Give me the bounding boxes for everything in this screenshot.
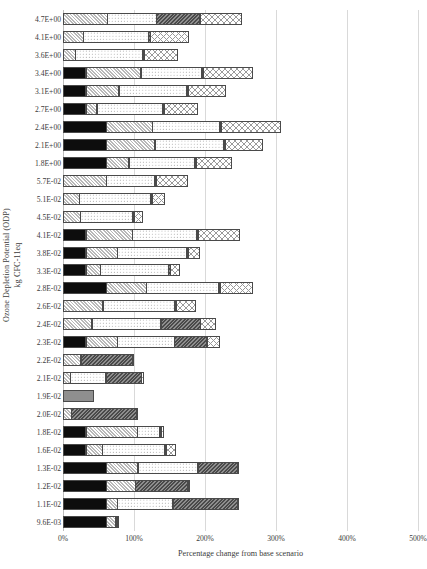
bar-row bbox=[63, 279, 418, 297]
bar-row bbox=[63, 136, 418, 154]
stacked-bar[interactable] bbox=[63, 13, 242, 25]
stacked-bar[interactable] bbox=[63, 498, 239, 510]
y-axis-tick-label: 5.7E-02 bbox=[37, 176, 61, 185]
bar-segment-segment-2 bbox=[63, 211, 81, 223]
y-axis-tick-label: 9.6E-03 bbox=[37, 518, 61, 527]
bar-segment-segment-3 bbox=[70, 372, 106, 384]
bar-row bbox=[63, 28, 418, 46]
bar-segment-segment-2 bbox=[86, 103, 97, 115]
bar-segment-segment-1 bbox=[63, 444, 86, 456]
stacked-bar[interactable] bbox=[63, 264, 180, 276]
stacked-bar[interactable] bbox=[63, 247, 200, 259]
bar-segment-segment-3 bbox=[79, 193, 151, 205]
bar-segment-segment-2 bbox=[106, 121, 152, 133]
bar-row bbox=[63, 64, 418, 82]
y-axis-tick-label: 2.4E-02 bbox=[37, 320, 61, 329]
bar-segment-segment-5 bbox=[188, 480, 190, 492]
stacked-bar[interactable] bbox=[63, 121, 281, 133]
stacked-bar[interactable] bbox=[63, 67, 253, 79]
bar-segment-segment-5 bbox=[141, 372, 143, 384]
bar-segment-segment-3 bbox=[97, 103, 164, 115]
stacked-bar[interactable] bbox=[63, 444, 176, 456]
bar-row bbox=[63, 297, 418, 315]
bar-segment-segment-3 bbox=[152, 121, 220, 133]
stacked-bar[interactable] bbox=[63, 408, 138, 420]
y-axis-tick-label: 2.8E-02 bbox=[37, 284, 61, 293]
stacked-bar[interactable] bbox=[63, 103, 198, 115]
bar-segment-segment-5 bbox=[117, 516, 119, 528]
bar-segment-segment-1 bbox=[63, 103, 86, 115]
y-axis-tick-label: 2.2E-02 bbox=[37, 356, 61, 365]
bar-segment-segment-1 bbox=[63, 462, 107, 474]
plot-area bbox=[63, 10, 418, 531]
stacked-bar[interactable] bbox=[63, 157, 232, 169]
stacked-bar[interactable] bbox=[63, 193, 165, 205]
bar-segment-segment-5 bbox=[144, 49, 178, 61]
bar-row bbox=[63, 172, 418, 190]
bar-segment-segment-3 bbox=[117, 498, 173, 510]
y-axis-tick-label: 4.7E+00 bbox=[35, 14, 61, 23]
bar-row bbox=[63, 208, 418, 226]
bar-row bbox=[63, 82, 418, 100]
y-axis-title-line-1: Ozone Depletion Potential (ODP) bbox=[1, 209, 12, 323]
bar-segment-segment-1 bbox=[63, 139, 107, 151]
stacked-bar[interactable] bbox=[63, 175, 188, 187]
bar-segment-segment-5 bbox=[134, 211, 143, 223]
y-axis-tick-label: 2.3E-02 bbox=[37, 338, 61, 347]
stacked-bar[interactable] bbox=[63, 426, 164, 438]
stacked-bar[interactable] bbox=[63, 85, 226, 97]
stacked-bar[interactable] bbox=[63, 49, 178, 61]
bar-segment-segment-3 bbox=[117, 336, 175, 348]
bar-segment-segment-2 bbox=[106, 139, 155, 151]
y-axis-tick-label: 2.7E+00 bbox=[35, 104, 61, 113]
stacked-bar[interactable] bbox=[63, 462, 239, 474]
stacked-bar[interactable] bbox=[63, 336, 220, 348]
bar-row bbox=[63, 100, 418, 118]
stacked-bar[interactable] bbox=[63, 372, 144, 384]
y-axis-tick-label: 2.0E-02 bbox=[37, 410, 61, 419]
bar-segment-segment-2 bbox=[86, 336, 118, 348]
x-axis-tick-labels: 0%100%200%300%400%500% bbox=[63, 534, 418, 548]
bar-segment-segment-3 bbox=[106, 175, 155, 187]
stacked-bar[interactable] bbox=[63, 300, 196, 312]
bar-segment-segment-2 bbox=[63, 175, 107, 187]
bar-segment-segment-2 bbox=[86, 426, 138, 438]
bar-segment-segment-2 bbox=[86, 247, 118, 259]
stacked-bar[interactable] bbox=[63, 31, 189, 43]
y-axis-tick-label: 3.6E+00 bbox=[35, 50, 61, 59]
stacked-bar[interactable] bbox=[63, 229, 240, 241]
bar-segment-segment-2 bbox=[86, 264, 101, 276]
y-axis-tick-label: 1.8E-02 bbox=[37, 428, 61, 437]
stacked-bar[interactable] bbox=[63, 516, 119, 528]
bar-segment-segment-4 bbox=[161, 318, 201, 330]
stacked-bar[interactable] bbox=[63, 139, 263, 151]
bar-segment-segment-4 bbox=[71, 408, 137, 420]
stacked-bar[interactable] bbox=[63, 354, 134, 366]
stacked-bar[interactable] bbox=[63, 480, 190, 492]
x-axis-tick-label: 400% bbox=[338, 534, 356, 543]
stacked-bar[interactable] bbox=[63, 390, 94, 402]
bar-segment-segment-5 bbox=[188, 85, 226, 97]
stacked-bar[interactable] bbox=[63, 318, 216, 330]
bar-segment-segment-2 bbox=[106, 480, 135, 492]
bar-segment-segment-3 bbox=[103, 300, 175, 312]
x-axis-tick-label: 200% bbox=[196, 534, 214, 543]
y-axis-tick-label: 1.6E-02 bbox=[37, 446, 61, 455]
bar-segment-segment-5 bbox=[200, 13, 242, 25]
bar-segment-segment-5 bbox=[207, 336, 220, 348]
bar-segment-segment-3 bbox=[119, 85, 188, 97]
bar-segment-segment-2 bbox=[63, 318, 92, 330]
x-axis-tick-label: 0% bbox=[58, 534, 68, 543]
bar-segment-segment-2 bbox=[63, 13, 108, 25]
bar-segment-segment-2 bbox=[86, 85, 119, 97]
bar-segment-segment-1 bbox=[63, 85, 86, 97]
bar-segment-segment-3 bbox=[132, 229, 197, 241]
bar-row bbox=[63, 46, 418, 64]
stacked-bar[interactable] bbox=[63, 282, 253, 294]
y-axis-tick-label: 4.1E+00 bbox=[35, 32, 61, 41]
bar-segment-segment-2 bbox=[63, 31, 84, 43]
bar-segment-segment-1 bbox=[63, 121, 107, 133]
stacked-bar[interactable] bbox=[63, 211, 143, 223]
bar-row bbox=[63, 495, 418, 513]
